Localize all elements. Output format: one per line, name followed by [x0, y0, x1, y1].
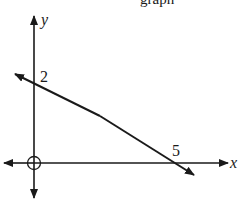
linear-graph: y x 2 5: [0, 0, 243, 202]
x-axis-label: x: [229, 154, 237, 171]
x-intercept-label: 5: [172, 142, 180, 159]
graph-line: [15, 74, 194, 175]
y-intercept-label: 2: [40, 68, 48, 85]
y-axis-label: y: [39, 11, 49, 29]
